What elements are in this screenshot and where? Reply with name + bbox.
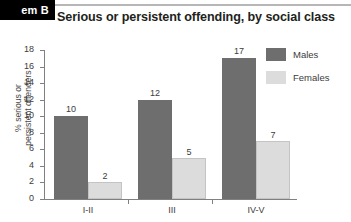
y-axis-tick: 12 xyxy=(40,100,44,101)
bar-i-ii-females: 2 xyxy=(88,182,122,199)
y-axis-tick: 4 xyxy=(40,166,44,167)
legend-swatch-females xyxy=(266,71,286,84)
bar-value-label: 10 xyxy=(66,104,76,114)
y-axis-tick-label: 12 xyxy=(24,94,34,104)
x-axis-category-label: IV-V xyxy=(222,205,290,215)
y-axis-tick-label: 16 xyxy=(24,61,34,71)
y-axis-label-line-2: persistent offenders xyxy=(23,38,33,178)
legend-item-females: Females xyxy=(266,71,350,84)
corner-tab-label: em B xyxy=(0,0,55,20)
bar-iii-males: 12 xyxy=(138,100,172,199)
y-axis-tick: 14 xyxy=(40,83,44,84)
x-axis-category-label: I-II xyxy=(54,205,122,215)
y-axis-line xyxy=(44,50,45,199)
legend-item-males: Males xyxy=(266,48,350,61)
bar-i-ii-males: 10 xyxy=(54,116,88,199)
y-axis-tick-label: 18 xyxy=(24,44,34,54)
bar-value-label: 12 xyxy=(150,88,160,98)
x-axis-tick xyxy=(128,200,129,204)
legend-swatch-males xyxy=(266,48,286,61)
bar-value-label: 17 xyxy=(234,46,244,56)
chart-legend: MalesFemales xyxy=(266,48,350,94)
legend-label: Females xyxy=(293,72,329,83)
bar-value-label: 5 xyxy=(186,147,191,157)
bar-iii-females: 5 xyxy=(172,158,206,199)
y-axis-tick: 6 xyxy=(40,149,44,150)
bar-value-label: 7 xyxy=(270,130,275,140)
plot-area: 024681012141618 102125177 I-IIIIIIV-V xyxy=(44,48,297,200)
y-axis-tick: 2 xyxy=(40,182,44,183)
y-axis-tick-label: 14 xyxy=(24,77,34,87)
y-axis-tick-label: 0 xyxy=(29,193,34,203)
x-axis-tick xyxy=(212,200,213,204)
bar-value-label: 2 xyxy=(102,171,107,181)
y-axis-tick: 18 xyxy=(40,50,44,51)
y-axis-tick: 0 xyxy=(40,199,44,200)
y-axis-tick: 16 xyxy=(40,67,44,68)
y-axis-label-line-1: % serious or xyxy=(13,38,23,178)
y-axis-tick-label: 2 xyxy=(29,176,34,186)
x-axis-line xyxy=(44,199,297,200)
y-axis-tick-label: 10 xyxy=(24,110,34,120)
y-axis-tick: 8 xyxy=(40,133,44,134)
y-axis-label: % serious or persistent offenders xyxy=(13,38,33,178)
y-axis-tick: 10 xyxy=(40,116,44,117)
bar-iv-v-females: 7 xyxy=(256,141,290,199)
y-axis-tick-label: 4 xyxy=(29,160,34,170)
y-axis-tick-label: 6 xyxy=(29,143,34,153)
y-axis-tick-label: 8 xyxy=(29,127,34,137)
bar-iv-v-males: 17 xyxy=(222,58,256,199)
chart-title: Serious or persistent offending, by soci… xyxy=(57,10,349,24)
legend-label: Males xyxy=(293,49,318,60)
x-axis-category-label: III xyxy=(138,205,206,215)
